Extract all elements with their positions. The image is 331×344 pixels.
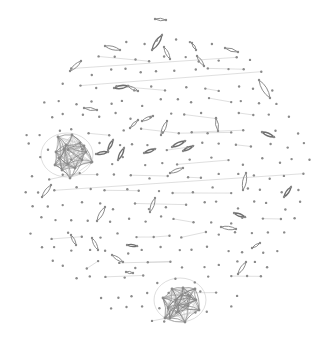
graph-node[interactable] — [284, 208, 286, 210]
graph-node[interactable] — [110, 68, 112, 70]
graph-node[interactable] — [200, 112, 202, 114]
graph-node[interactable] — [161, 34, 163, 36]
graph-node[interactable] — [280, 218, 282, 220]
graph-node[interactable] — [169, 58, 171, 60]
graph-node[interactable] — [283, 196, 285, 198]
graph-node[interactable] — [25, 134, 27, 136]
graph-node[interactable] — [261, 131, 263, 133]
graph-node[interactable] — [153, 236, 155, 238]
graph-node[interactable] — [90, 100, 92, 102]
graph-node[interactable] — [89, 249, 91, 251]
graph-node[interactable] — [183, 113, 185, 115]
graph-node[interactable] — [251, 232, 253, 234]
graph-node[interactable] — [230, 275, 232, 277]
graph-node[interactable] — [210, 156, 212, 158]
graph-node[interactable] — [204, 87, 206, 89]
graph-node[interactable] — [74, 167, 77, 170]
graph-node[interactable] — [254, 261, 256, 263]
graph-node[interactable] — [175, 311, 177, 313]
graph-node[interactable] — [259, 242, 261, 244]
graph-node[interactable] — [129, 127, 131, 129]
graph-node[interactable] — [148, 177, 150, 179]
graph-node[interactable] — [179, 249, 181, 251]
graph-node[interactable] — [164, 89, 166, 91]
graph-node[interactable] — [177, 98, 179, 100]
graph-node[interactable] — [90, 161, 92, 163]
graph-node[interactable] — [242, 189, 244, 191]
graph-node[interactable] — [190, 101, 192, 103]
graph-node[interactable] — [299, 201, 301, 203]
graph-node[interactable] — [161, 162, 163, 164]
graph-node[interactable] — [283, 231, 285, 233]
graph-node[interactable] — [181, 294, 184, 297]
graph-node[interactable] — [192, 191, 194, 193]
graph-node[interactable] — [165, 19, 167, 21]
graph-node[interactable] — [140, 128, 142, 130]
graph-node[interactable] — [79, 142, 82, 145]
graph-node[interactable] — [62, 204, 64, 206]
graph-node[interactable] — [171, 288, 174, 291]
graph-node[interactable] — [236, 295, 238, 297]
graph-node[interactable] — [99, 202, 101, 204]
graph-node[interactable] — [276, 250, 278, 252]
graph-node[interactable] — [275, 103, 277, 105]
graph-node[interactable] — [215, 117, 217, 119]
graph-node[interactable] — [260, 71, 262, 73]
graph-node[interactable] — [113, 87, 115, 89]
graph-node[interactable] — [141, 305, 143, 307]
graph-node[interactable] — [171, 192, 173, 194]
graph-node[interactable] — [191, 131, 193, 133]
graph-node[interactable] — [201, 142, 203, 144]
graph-node[interactable] — [135, 236, 137, 238]
graph-node[interactable] — [265, 202, 267, 204]
graph-node[interactable] — [126, 244, 128, 246]
graph-node[interactable] — [267, 231, 269, 233]
graph-node[interactable] — [163, 46, 165, 48]
graph-node[interactable] — [98, 116, 100, 118]
graph-node[interactable] — [146, 144, 148, 146]
graph-node[interactable] — [137, 119, 139, 121]
graph-node[interactable] — [308, 159, 310, 161]
graph-node[interactable] — [149, 116, 151, 118]
graph-node[interactable] — [185, 56, 187, 58]
graph-node[interactable] — [227, 250, 229, 252]
graph-node[interactable] — [91, 237, 93, 239]
graph-node[interactable] — [125, 271, 127, 273]
graph-node[interactable] — [146, 292, 148, 294]
graph-node[interactable] — [57, 136, 60, 139]
graph-node[interactable] — [95, 153, 97, 155]
graph-node[interactable] — [279, 162, 281, 164]
graph-node[interactable] — [238, 112, 240, 114]
graph-node[interactable] — [48, 178, 50, 180]
graph-node[interactable] — [288, 116, 290, 118]
graph-node[interactable] — [83, 107, 85, 109]
graph-node[interactable] — [111, 163, 113, 165]
graph-node[interactable] — [218, 233, 220, 235]
graph-node[interactable] — [237, 51, 239, 53]
graph-node[interactable] — [233, 212, 235, 214]
graph-node[interactable] — [47, 205, 49, 207]
graph-node[interactable] — [130, 174, 132, 176]
graph-node[interactable] — [69, 177, 72, 180]
graph-node[interactable] — [40, 216, 42, 218]
graph-node[interactable] — [169, 172, 171, 174]
graph-node[interactable] — [215, 200, 217, 202]
graph-node[interactable] — [154, 148, 156, 150]
graph-node[interactable] — [191, 42, 193, 44]
graph-node[interactable] — [150, 85, 152, 87]
graph-node[interactable] — [283, 175, 285, 177]
graph-node[interactable] — [156, 282, 158, 284]
graph-node[interactable] — [100, 297, 102, 299]
graph-node[interactable] — [218, 264, 220, 266]
graph-node[interactable] — [71, 134, 74, 137]
graph-node[interactable] — [189, 41, 191, 43]
graph-node[interactable] — [29, 232, 31, 234]
graph-node[interactable] — [75, 186, 77, 188]
graph-node[interactable] — [166, 120, 168, 122]
graph-node[interactable] — [190, 249, 192, 251]
graph-node[interactable] — [262, 252, 264, 254]
graph-node[interactable] — [200, 177, 202, 179]
graph-node[interactable] — [133, 89, 135, 91]
graph-node[interactable] — [237, 207, 239, 209]
graph-node[interactable] — [50, 184, 52, 186]
